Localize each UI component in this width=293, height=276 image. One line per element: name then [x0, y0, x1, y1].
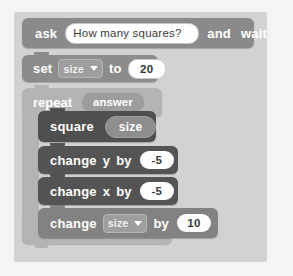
change-y-value-input[interactable]: -5: [140, 151, 174, 169]
change-x-by-block[interactable]: change x by -5: [38, 177, 178, 205]
chevron-down-icon: [90, 66, 98, 71]
change-size-by-block[interactable]: change size by 10: [38, 208, 218, 238]
change-variable-dropdown[interactable]: size: [103, 214, 148, 233]
answer-reporter[interactable]: answer: [81, 92, 145, 113]
wait-label: wait: [236, 26, 272, 41]
script-canvas: ask How many squares? and wait set size …: [0, 0, 293, 276]
by-label-x: by: [113, 184, 135, 199]
change-size-label: change: [47, 216, 100, 231]
chevron-down-icon-2: [134, 221, 142, 226]
set-variable-dropdown-value: size: [63, 63, 84, 75]
set-label: set: [30, 61, 55, 76]
ask-question-input[interactable]: How many squares?: [65, 23, 199, 44]
ask-label: ask: [30, 26, 62, 41]
repeat-block-arm: [22, 116, 39, 220]
by-label-y: by: [113, 153, 135, 168]
change-size-value-input[interactable]: 10: [177, 214, 211, 232]
ask-and-wait-block[interactable]: ask How many squares? and wait: [22, 18, 254, 48]
set-variable-dropdown[interactable]: size: [58, 59, 103, 78]
change-variable-dropdown-value: size: [108, 217, 129, 229]
change-y-label: change: [47, 153, 100, 168]
set-variable-block[interactable]: set size to 20: [22, 55, 158, 82]
by-label-size: by: [150, 216, 172, 231]
square-label: square: [47, 119, 97, 134]
y-axis-label: y: [100, 153, 113, 168]
to-label: to: [106, 61, 125, 76]
change-x-label: change: [47, 184, 100, 199]
square-size-argument[interactable]: size: [105, 116, 156, 138]
square-custom-block[interactable]: square size: [38, 111, 156, 142]
change-y-by-block[interactable]: change y by -5: [38, 146, 178, 174]
x-axis-label: x: [100, 184, 113, 199]
and-label: and: [202, 26, 236, 41]
set-value-input[interactable]: 20: [128, 59, 166, 79]
change-x-value-input[interactable]: -5: [140, 182, 174, 200]
